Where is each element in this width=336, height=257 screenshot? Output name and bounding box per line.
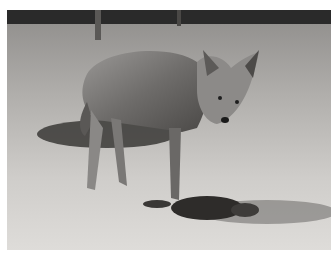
coyote-photo [7,10,331,250]
tree-trunk [177,10,181,26]
photo-frame [0,0,336,257]
treeline [7,10,331,24]
tree-trunk [95,10,101,40]
